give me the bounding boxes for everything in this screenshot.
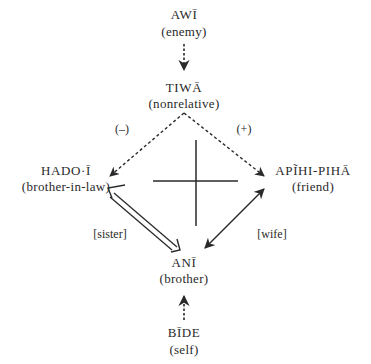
node-brother-term: ANĪ (172, 256, 197, 269)
edge-label-wife: [wife] (257, 228, 286, 240)
node-inlaw-term: HADO·Ī (41, 164, 91, 177)
node-enemy-gloss: (enemy) (161, 25, 206, 38)
edge-label-plus: (+) (237, 123, 252, 135)
node-nonrelative-gloss: (nonrelative) (148, 97, 219, 110)
wife-double-headed-arrow (205, 189, 264, 248)
node-enemy-term: AWĪ (171, 8, 198, 21)
kinship-diagram: AWĪ (enemy) TIWĀ (nonrelative) (–) (+) H… (0, 0, 371, 364)
node-friend-gloss: (friend) (292, 180, 334, 193)
node-inlaw-gloss: (brother-in-law) (22, 180, 110, 193)
node-self-term: BĪDE (168, 326, 201, 339)
node-self-gloss: (self) (169, 343, 198, 356)
edge-label-sister: [sister] (93, 228, 126, 240)
edge-label-minus: (–) (115, 123, 129, 135)
node-brother-gloss: (brother) (160, 272, 209, 285)
sister-double-arrow (108, 185, 180, 252)
node-nonrelative-term: TIWĀ (166, 81, 202, 94)
node-friend-term: APĨHI-PIHĀ (275, 164, 350, 177)
